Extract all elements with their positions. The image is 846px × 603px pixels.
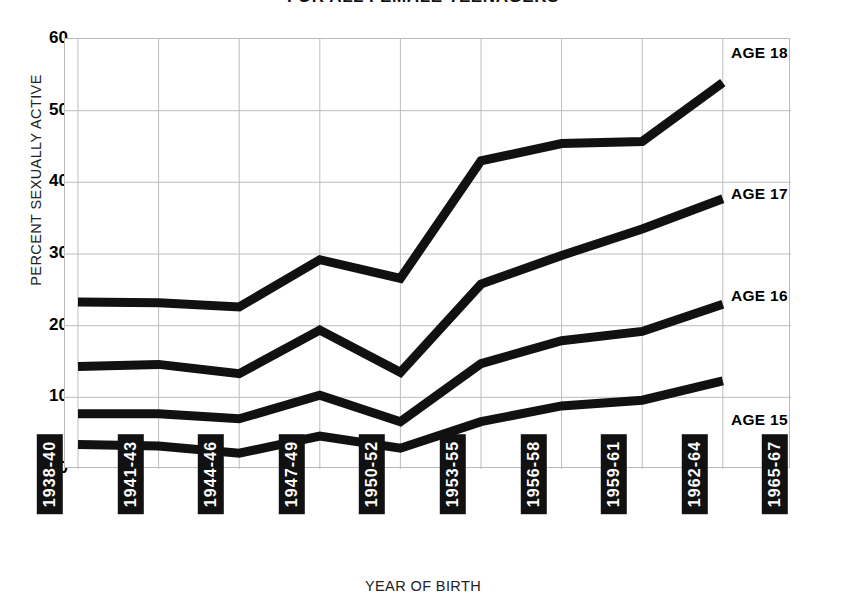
x-axis-tick-label: 1938-40: [37, 434, 63, 514]
x-axis-tick-label: 1959-61: [601, 434, 627, 514]
y-axis-tick-label: 50: [22, 101, 68, 118]
plot-area: [64, 38, 790, 468]
x-axis-tick-label: 1947-49: [279, 434, 305, 514]
y-axis-tick-label: 30: [22, 244, 68, 261]
x-axis-tick-label: 1962-64: [682, 434, 708, 514]
series-label-age-17: AGE 17: [731, 185, 788, 203]
x-axis-tick-label: 1953-55: [440, 434, 466, 514]
x-axis-tick-label: 1950-52: [359, 434, 385, 514]
x-axis-tick-label: 1944-46: [198, 434, 224, 514]
y-axis-tick-label: 60: [22, 29, 68, 46]
x-axis-tick-label: 1956-58: [520, 434, 546, 514]
page-title: FOR ALL FEMALE TEENAGERS: [0, 0, 846, 7]
y-axis-tick-label: 40: [22, 172, 68, 189]
x-axis-tick-label: 1965-67: [762, 434, 788, 514]
y-axis-tick-label: 10: [22, 387, 68, 404]
series-label-age-18: AGE 18: [731, 44, 788, 62]
x-axis-title: YEAR OF BIRTH: [0, 578, 846, 594]
y-axis-tick-label: 20: [22, 316, 68, 333]
series-label-age-15: AGE 15: [731, 411, 788, 429]
x-axis-tick-label: 1941-43: [117, 434, 143, 514]
series-lines: [65, 39, 791, 469]
series-label-age-16: AGE 16: [731, 287, 788, 305]
